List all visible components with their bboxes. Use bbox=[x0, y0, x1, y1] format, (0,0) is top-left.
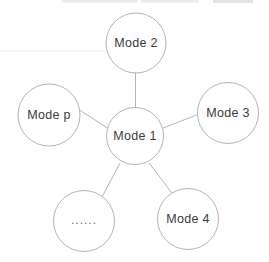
artifact-fragment bbox=[62, 0, 138, 3]
edge-mode1-modep bbox=[78, 109, 109, 129]
faint-line-artifact bbox=[0, 51, 106, 52]
artifact-fragment bbox=[213, 0, 253, 3]
mode-star-diagram: Mode 2 Mode p Mode 3 Mode 1 ...... Mode … bbox=[0, 0, 269, 262]
cropped-text-artifact bbox=[62, 0, 253, 3]
node-label-mode-p: Mode p bbox=[27, 108, 71, 122]
artifact-fragment bbox=[141, 0, 199, 3]
edge-mode1-ellipsis bbox=[102, 163, 120, 197]
edge-mode1-mode4 bbox=[149, 163, 172, 193]
node-label-mode-4: Mode 4 bbox=[166, 212, 210, 226]
node-label-mode-1: Mode 1 bbox=[113, 129, 157, 143]
node-label-mode-3: Mode 3 bbox=[206, 106, 250, 120]
mode-diagram-canvas: Mode 2 Mode p Mode 3 Mode 1 ...... Mode … bbox=[0, 0, 269, 262]
node-label-mode-2: Mode 2 bbox=[114, 36, 158, 50]
node-label-ellipsis: ...... bbox=[71, 213, 97, 227]
edge-mode1-mode3 bbox=[158, 114, 199, 130]
